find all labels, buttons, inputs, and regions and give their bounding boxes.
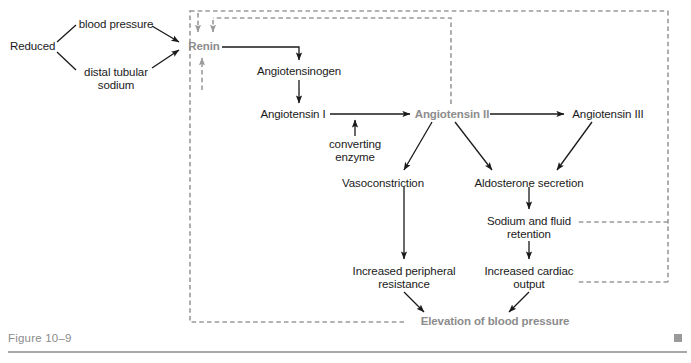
edge-angiotensin-ii-to-vasoconstriction bbox=[404, 122, 432, 170]
edge-blood-pressure-to-renin bbox=[152, 26, 179, 42]
edge-angiotensin-iii-to-aldosterone bbox=[557, 122, 592, 170]
edge-peripheral-resistance-to-elevation bbox=[404, 292, 424, 312]
node-distal-tubular-sodium: distal tubular sodium bbox=[76, 66, 156, 91]
node-angiotensin-ii: Angiotensin II bbox=[412, 108, 492, 121]
edge-renin-to-angiotensinogen bbox=[222, 47, 299, 60]
node-blood-pressure: blood pressure bbox=[78, 18, 154, 31]
node-sodium-fluid-retention: Sodium and fluid retention bbox=[481, 215, 577, 240]
node-vasoconstriction: Vasoconstriction bbox=[335, 177, 431, 190]
node-angiotensinogen: Angiotensinogen bbox=[251, 65, 347, 78]
caption-divider bbox=[8, 351, 687, 353]
node-renin: Renin bbox=[184, 40, 224, 53]
edge-cardiac-output-to-elevation bbox=[509, 292, 529, 312]
node-aldosterone-secretion: Aldosterone secretion bbox=[463, 177, 595, 190]
figure-caption: Figure 10–9 bbox=[8, 332, 72, 344]
edge-reduced-to-distal-sodium bbox=[57, 52, 76, 70]
node-increased-cardiac-output: Increased cardiac output bbox=[478, 265, 580, 290]
feedback-angiotensin-ii-to-renin bbox=[213, 18, 451, 104]
node-increased-peripheral-resistance: Increased peripheral resistance bbox=[344, 265, 464, 290]
node-angiotensin-i: Angiotensin I bbox=[256, 108, 330, 121]
node-converting-enzyme: converting enzyme bbox=[317, 138, 393, 163]
figure-caption-bar: Figure 10–9 bbox=[0, 330, 691, 363]
figure-container: Reduced blood pressure distal tubular so… bbox=[0, 0, 691, 363]
edge-distal-sodium-to-renin bbox=[152, 50, 179, 68]
node-angiotensin-iii: Angiotensin III bbox=[566, 108, 650, 121]
node-elevation-of-blood-pressure: Elevation of blood pressure bbox=[420, 315, 570, 328]
node-reduced: Reduced bbox=[10, 40, 58, 53]
edge-reduced-to-blood-pressure bbox=[57, 25, 76, 42]
square-marker-icon bbox=[674, 334, 682, 342]
edge-angiotensin-ii-to-aldosterone bbox=[455, 122, 492, 170]
